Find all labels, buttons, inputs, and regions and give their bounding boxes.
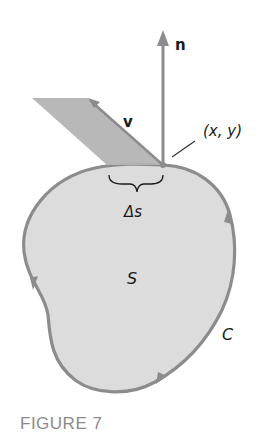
label-region: S <box>127 269 137 288</box>
n-arrowhead-icon <box>157 30 169 46</box>
label-curve: C <box>222 325 234 344</box>
point-leader-line <box>172 141 195 157</box>
figure-caption: FIGURE 7 <box>20 414 102 433</box>
label-point: (x, y) <box>203 122 242 140</box>
figure-canvas: n v (x, y) Δs S C FIGURE 7 <box>0 0 267 436</box>
label-v: v <box>123 113 133 131</box>
label-arc-length: Δs <box>123 203 142 221</box>
label-n: n <box>175 36 186 54</box>
point-xy <box>160 162 166 168</box>
